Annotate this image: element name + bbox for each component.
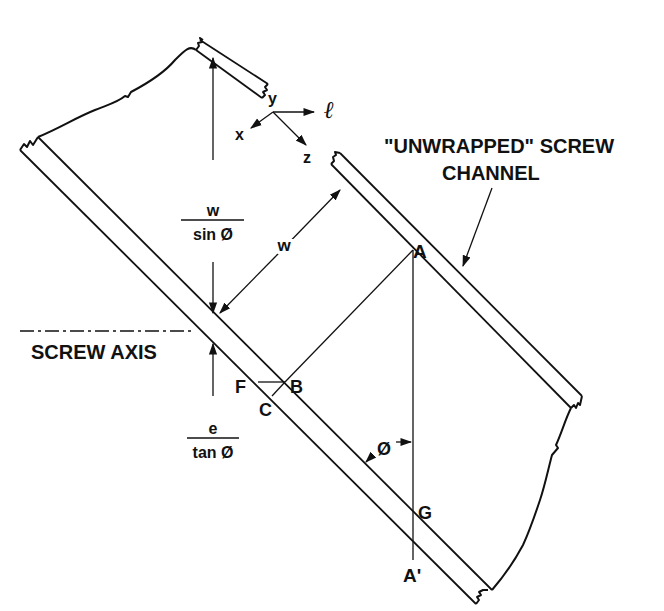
angle-phi-label: Ø	[377, 439, 391, 459]
right-broken-edge	[492, 408, 571, 590]
e-over-tan-dimension: e tan Ø	[187, 344, 239, 461]
point-g-label: G	[418, 503, 432, 523]
axis-l-label: ℓ	[324, 97, 334, 123]
coordinate-axes: y ℓ x z	[235, 90, 334, 166]
top-broken-edge	[38, 48, 196, 137]
screw-axis-label: SCREW AXIS	[31, 341, 157, 363]
w-over-sin-dimension: w sin Ø	[181, 58, 244, 313]
w-over-sin-numerator: w	[206, 202, 220, 219]
w-over-sin-denominator: sin Ø	[193, 226, 233, 243]
screw-channel-diagram: y ℓ x z w sin Ø w SCREW AXIS e tan Ø	[0, 0, 664, 611]
lower-flight-wall	[20, 137, 492, 604]
point-c-label: C	[259, 400, 272, 420]
axis-y-label: y	[268, 90, 277, 107]
screw-axis: SCREW AXIS	[20, 331, 192, 363]
point-a-label: A	[413, 241, 427, 262]
axis-z-label: z	[303, 149, 311, 166]
w-width-label: w	[276, 236, 291, 255]
axis-x-label: x	[235, 126, 244, 143]
channel-leader-arrow	[463, 188, 492, 266]
top-wall-fragment	[196, 38, 268, 98]
channel-title-line2: CHANNEL	[442, 162, 540, 184]
point-a-prime-label: A'	[403, 565, 421, 586]
e-over-tan-denominator: tan Ø	[193, 444, 234, 461]
e-over-tan-numerator: e	[209, 420, 218, 437]
channel-title-line1: "UNWRAPPED" SCREW	[384, 135, 614, 157]
construction-lines	[258, 250, 413, 560]
angle-phi-indicator: Ø	[366, 439, 411, 462]
point-b-label: B	[290, 377, 303, 397]
point-f-label: F	[235, 377, 246, 397]
upper-flight-wall	[331, 152, 582, 408]
w-width-dimension: w	[220, 190, 340, 313]
